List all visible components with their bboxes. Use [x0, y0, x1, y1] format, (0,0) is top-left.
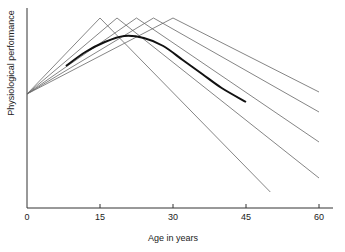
x-tick-label: 60 [314, 212, 324, 222]
x-axis-label: Age in years [148, 233, 198, 243]
average-curve [66, 36, 246, 102]
x-tick-label: 30 [168, 212, 178, 222]
chart: 015304560 Age in years Physiological per… [0, 0, 345, 252]
individual-line [27, 18, 319, 112]
individual-line [27, 18, 270, 192]
x-tick-label: 15 [95, 212, 105, 222]
individual-line [27, 18, 319, 178]
x-tick-label: 45 [241, 212, 251, 222]
x-tick-label: 0 [24, 212, 29, 222]
y-axis-label: Physiological performance [6, 10, 16, 116]
individual-line [27, 18, 319, 142]
